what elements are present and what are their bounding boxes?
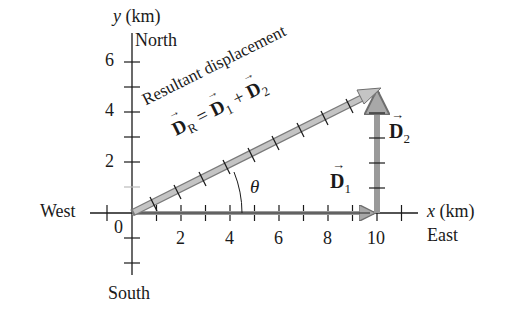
d2-sub: 2 bbox=[403, 131, 410, 146]
vector-arrow-icon: → bbox=[391, 107, 404, 123]
angle-arc bbox=[234, 172, 242, 213]
south-label: South bbox=[108, 283, 150, 304]
d2-label: →D2 bbox=[389, 120, 410, 147]
west-label: West bbox=[40, 201, 76, 222]
y-tick-6: 6 bbox=[105, 50, 114, 71]
x-unit: (km) bbox=[440, 201, 475, 221]
x-var: x bbox=[427, 201, 435, 221]
vector-arrow-icon: → bbox=[332, 157, 345, 173]
d1-letter: D bbox=[330, 170, 344, 192]
y-axis-label: y (km) bbox=[113, 6, 161, 27]
y-tick-4: 4 bbox=[105, 100, 114, 121]
eq-d1-symbol: →D bbox=[207, 95, 229, 121]
north-label: North bbox=[135, 30, 177, 51]
vector-d2 bbox=[369, 92, 385, 213]
eq-d2-symbol: →D bbox=[243, 77, 265, 103]
x-tick-0: 0 bbox=[114, 217, 123, 238]
d1-sub: 1 bbox=[344, 181, 351, 196]
vector-diagram: y (km) North 6 4 2 West 0 2 4 6 8 10 x (… bbox=[0, 0, 526, 322]
d2-symbol: →D bbox=[389, 120, 403, 143]
x-tick-2: 2 bbox=[176, 228, 185, 249]
x-tick-8: 8 bbox=[323, 228, 332, 249]
y-tick-2: 2 bbox=[105, 151, 114, 172]
east-label: East bbox=[427, 225, 458, 246]
y-axis bbox=[124, 33, 140, 275]
x-tick-6: 6 bbox=[274, 228, 283, 249]
d1-symbol: →D bbox=[330, 170, 344, 193]
x-tick-4: 4 bbox=[225, 228, 234, 249]
x-tick-10: 10 bbox=[367, 228, 385, 249]
y-unit: (km) bbox=[126, 6, 161, 26]
x-axis-label: x (km) bbox=[427, 201, 475, 222]
angle-theta-label: θ bbox=[250, 176, 259, 198]
d1-label: →D1 bbox=[330, 170, 351, 197]
y-var: y bbox=[113, 6, 121, 26]
d2-letter: D bbox=[389, 120, 403, 142]
